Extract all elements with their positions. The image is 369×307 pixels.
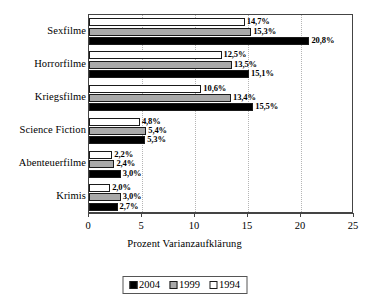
- category-axis-labels: SexfilmeHorrorfilmeKriegsfilmeScience Fi…: [0, 14, 86, 213]
- bar-2004: [89, 37, 309, 45]
- plot-area: 14,7%15,3%20,8%12,5%13,5%15,1%10,6%13,4%…: [88, 14, 353, 213]
- x-axis-title: Prozent Varianzaufklärung: [0, 238, 369, 249]
- legend-label: 1994: [219, 279, 240, 290]
- legend: 200419991994: [122, 276, 247, 294]
- legend-item-1999: 1999: [169, 279, 200, 290]
- x-tick: [353, 213, 354, 217]
- bar-chart: SexfilmeHorrorfilmeKriegsfilmeScience Fi…: [0, 0, 369, 307]
- x-tick-label: 5: [138, 220, 143, 231]
- legend-label: 2004: [139, 279, 160, 290]
- x-tick: [88, 213, 89, 217]
- bar-row: 13,5%: [89, 61, 352, 69]
- bar-row: 4,8%: [89, 118, 352, 126]
- bar-1999: [89, 28, 251, 36]
- bar-row: 3,0%: [89, 170, 352, 178]
- bar-group: 2,2%2,4%3,0%: [89, 151, 352, 178]
- category-label: Horrorfilme: [0, 58, 86, 69]
- bar-2004: [89, 203, 118, 211]
- x-tick-label: 25: [348, 220, 359, 231]
- bar-group: 10,6%13,4%15,5%: [89, 85, 352, 112]
- x-tick-label: 10: [189, 220, 200, 231]
- bar-1994: [89, 18, 245, 26]
- category-label: Kriegsfilme: [0, 91, 86, 102]
- bar-row: 5,4%: [89, 127, 352, 135]
- legend-swatch-icon: [209, 281, 217, 289]
- bar-value-label: 10,6%: [203, 83, 226, 94]
- legend-item-2004: 2004: [129, 279, 160, 290]
- bar-1999: [89, 94, 231, 102]
- category-label: Sexfilme: [0, 25, 86, 36]
- legend-item-1994: 1994: [209, 279, 240, 290]
- bar-1994: [89, 118, 140, 126]
- bar-value-label: 3,0%: [123, 168, 142, 179]
- bar-1999: [89, 61, 232, 69]
- bar-1999: [89, 127, 146, 135]
- x-tick: [300, 213, 301, 217]
- bar-1994: [89, 184, 110, 192]
- bar-row: 10,6%: [89, 85, 352, 93]
- x-tick: [247, 213, 248, 217]
- x-tick-label: 15: [242, 220, 253, 231]
- bar-value-label: 5,3%: [147, 134, 166, 145]
- bar-2004: [89, 70, 249, 78]
- bar-value-label: 15,1%: [251, 68, 274, 79]
- legend-label: 1999: [179, 279, 200, 290]
- bar-value-label: 20,8%: [311, 35, 334, 46]
- category-label: Science Fiction: [0, 124, 86, 135]
- x-tick: [194, 213, 195, 217]
- bar-row: 2,7%: [89, 203, 352, 211]
- x-axis: 0510152025: [88, 213, 353, 214]
- bar-row: 15,1%: [89, 70, 352, 78]
- bar-row: 5,3%: [89, 136, 352, 144]
- x-tick-label: 20: [295, 220, 306, 231]
- bar-1999: [89, 193, 121, 201]
- bar-value-label: 15,3%: [253, 26, 276, 37]
- bar-2004: [89, 136, 145, 144]
- legend-swatch-icon: [169, 281, 177, 289]
- bar-row: 15,5%: [89, 103, 352, 111]
- legend-swatch-icon: [129, 281, 137, 289]
- bar-1999: [89, 160, 114, 168]
- bar-2004: [89, 103, 253, 111]
- bar-2004: [89, 170, 121, 178]
- bar-row: 12,5%: [89, 51, 352, 59]
- bar-row: 14,7%: [89, 18, 352, 26]
- bar-1994: [89, 85, 201, 93]
- bar-row: 20,8%: [89, 37, 352, 45]
- bar-group: 12,5%13,5%15,1%: [89, 51, 352, 78]
- bar-group: 4,8%5,4%5,3%: [89, 118, 352, 145]
- bar-1994: [89, 151, 112, 159]
- x-tick-label: 0: [85, 220, 90, 231]
- bar-1994: [89, 51, 222, 59]
- category-label: Abenteuerfilme: [0, 157, 86, 168]
- bar-group: 2,0%3,0%2,7%: [89, 184, 352, 211]
- bar-group: 14,7%15,3%20,8%: [89, 18, 352, 45]
- bar-value-label: 13,4%: [233, 92, 256, 103]
- category-label: Krimis: [0, 190, 86, 201]
- x-tick: [141, 213, 142, 217]
- bar-row: 13,4%: [89, 94, 352, 102]
- bar-value-label: 15,5%: [255, 101, 278, 112]
- bar-value-label: 2,7%: [120, 201, 139, 212]
